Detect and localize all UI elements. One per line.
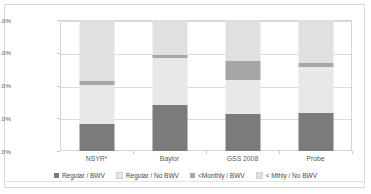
bar-segment[interactable] [152,20,187,55]
legend-swatch-icon [116,172,123,179]
chart-container: 100.0%75.0%50.0%25.0%0.0% NSYR*BaylorGSS… [4,4,365,188]
y-axis-label: 75.0% [0,49,11,56]
bar-segment[interactable] [152,55,187,58]
bar-slot [206,20,279,151]
y-axis-label: 0.0% [0,148,11,155]
bar-segment[interactable] [298,20,333,63]
x-axis-tick [352,151,353,154]
stacked-bar[interactable] [225,20,260,151]
legend-label: Regular / No BWV [126,172,179,179]
x-axis-tick [206,151,207,154]
legend-item[interactable]: < Mthly / No BWV [256,172,317,179]
bar-segment[interactable] [225,61,260,81]
bar-slot [279,20,352,151]
bar-segment[interactable] [298,113,333,151]
bar-segment[interactable] [79,124,114,151]
bar-segment[interactable] [152,105,187,151]
x-axis-label: GSS 2008 [206,155,279,162]
bar-segment[interactable] [298,67,333,113]
bar-slot [133,20,206,151]
x-axis-tick [133,151,134,154]
stacked-bar[interactable] [152,20,187,151]
x-axis-tick [279,151,280,154]
x-axis-label: Probe [279,155,352,162]
legend-item[interactable]: Regular / No BWV [116,172,179,179]
bar-segment[interactable] [152,58,187,105]
legend-label: Regular / BWV [62,172,105,179]
bar-segment[interactable] [225,80,260,113]
x-axis-label: Baylor [133,155,206,162]
legend-label: <Monthly / BWV [198,172,245,179]
bar-slot [60,20,133,151]
stacked-bar[interactable] [298,20,333,151]
bar-segment[interactable] [225,114,260,151]
bar-segment[interactable] [79,20,114,81]
x-axis-label: NSYR* [60,155,133,162]
y-axis-label: 100.0% [0,17,11,24]
bar-segment[interactable] [225,20,260,61]
legend-label: < Mthly / No BWV [266,172,317,179]
y-axis-label: 50.0% [0,82,11,89]
stacked-bar[interactable] [79,20,114,151]
legend-swatch-icon [54,173,59,178]
bar-segment[interactable] [298,63,333,68]
chart-legend: Regular / BWVRegular / No BWV<Monthly / … [5,172,366,179]
bar-segment[interactable] [79,81,114,85]
x-axis: NSYR*BaylorGSS 2008Probe [60,155,352,169]
legend-swatch-icon [190,173,195,178]
bar-series-group [60,20,352,151]
legend-swatch-icon [256,172,263,179]
bar-segment[interactable] [79,85,114,124]
legend-divider [6,181,365,182]
y-axis-tick [57,151,60,152]
legend-item[interactable]: Regular / BWV [54,172,105,179]
legend-item[interactable]: <Monthly / BWV [190,172,245,179]
y-axis-label: 25.0% [0,115,11,122]
